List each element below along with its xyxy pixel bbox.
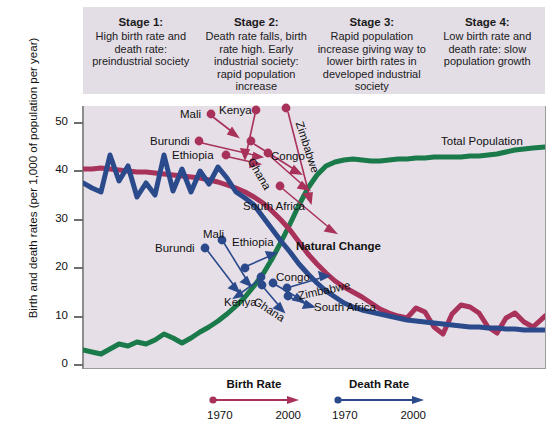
death-marker-zimbabwe xyxy=(283,284,290,291)
natural-change-annotation: Natural Change xyxy=(296,240,362,253)
death-marker-south-africa xyxy=(284,292,291,299)
legend-birth-rate: Birth Rate 1970 2000 xyxy=(205,378,303,421)
legend-death-title: Death Rate xyxy=(330,378,428,390)
chart-legend: Birth Rate 1970 2000 Death Rate 1970 200… xyxy=(0,378,558,432)
death-arrow-burundi-head xyxy=(229,283,239,292)
birth-label-south-africa: South Africa xyxy=(243,200,305,212)
death-label-burundi: Burundi xyxy=(155,242,195,254)
legend-death-start-year: 1970 xyxy=(332,409,358,421)
birth-label-ethiopia: Ethiopia xyxy=(172,149,214,161)
birth-label-burundi: Burundi xyxy=(150,135,190,147)
legend-birth-start-year: 1970 xyxy=(207,409,233,421)
death-marker-ghana xyxy=(258,281,265,288)
legend-birth-end-year: 2000 xyxy=(275,409,301,421)
birth-label-kenya: Kenya xyxy=(219,104,252,116)
birth-label-mali: Mali xyxy=(180,108,201,120)
death-arrow-zimbabwe-head xyxy=(319,272,329,280)
death-arrow-ethiopia-head xyxy=(266,252,276,259)
birth-label-congo: Congo xyxy=(271,150,305,162)
death-label-south-africa: South Africa xyxy=(314,301,376,313)
total-population-annotation: Total Population xyxy=(441,135,523,147)
death-arrow-mali-head xyxy=(241,277,251,286)
legend-death-arrow xyxy=(330,392,428,408)
death-label-ethiopia: Ethiopia xyxy=(232,236,274,248)
death-annotations-layer xyxy=(0,0,558,432)
legend-birth-arrow xyxy=(205,392,303,408)
death-label-kenya: Kenya xyxy=(224,296,257,308)
chart-root: Stage 1: High birth rate and death rate:… xyxy=(0,0,558,432)
legend-birth-title: Birth Rate xyxy=(205,378,303,390)
death-label-mali: Mali xyxy=(203,228,224,240)
legend-death-rate: Death Rate 1970 2000 xyxy=(330,378,428,421)
legend-death-end-year: 2000 xyxy=(400,409,426,421)
death-label-congo: Congo xyxy=(276,271,310,283)
